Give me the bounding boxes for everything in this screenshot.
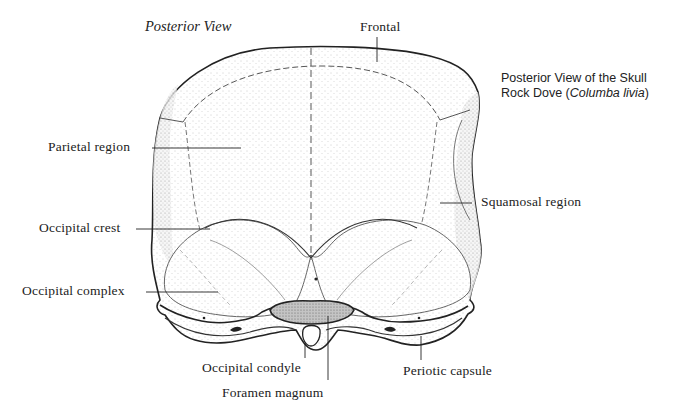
label-occipital-crest: Occipital crest	[39, 220, 120, 236]
caption-prefix: Rock Dove (	[501, 86, 570, 100]
label-squamosal-region: Squamosal region	[481, 194, 581, 210]
label-periotic-capsule: Periotic capsule	[403, 363, 492, 379]
skull-illustration	[0, 0, 683, 420]
label-occipital-complex: Occipital complex	[22, 283, 125, 299]
caption-line-2: Rock Dove (Columba livia)	[501, 86, 649, 101]
label-parietal-region: Parietal region	[48, 139, 130, 155]
figure-caption: Posterior View of the Skull Rock Dove (C…	[501, 71, 649, 101]
caption-line-1: Posterior View of the Skull	[501, 71, 649, 86]
label-frontal: Frontal	[360, 19, 400, 35]
caption-suffix: )	[645, 86, 649, 100]
label-foramen-magnum: Foramen magnum	[222, 385, 323, 401]
species-name: Columba livia	[570, 86, 645, 100]
label-occipital-condyle: Occipital condyle	[202, 360, 301, 376]
foramen-magnum	[270, 301, 354, 324]
view-title: Posterior View	[145, 18, 231, 35]
